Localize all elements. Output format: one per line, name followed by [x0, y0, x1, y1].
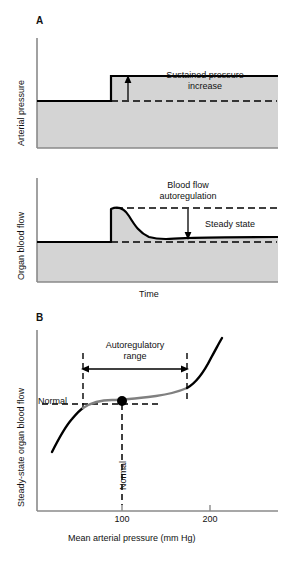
panel-b-range-arrow-head-left [81, 366, 89, 373]
panel-mid-autoregulation-arrow-head [185, 232, 192, 240]
panel-a-label: A [36, 15, 43, 26]
panel-mid-annotation-line1: Blood flow [138, 180, 238, 191]
panel-a-annotation: Sustained pressure increase [140, 70, 270, 92]
panel-a-annotation-line1: Sustained pressure [140, 70, 270, 81]
panel-b-x-axis-title: Mean arterial pressure (mm Hg) [68, 533, 196, 543]
panel-a-y-axis-title: Arterial pressure [16, 80, 26, 146]
panel-a-annotation-line2: increase [140, 81, 270, 92]
panel-mid-autoregulation-annotation: Blood flow autoregulation [138, 180, 238, 202]
panel-b-normal-flow-label: Normal [38, 396, 67, 407]
panel-b-normal-point-marker [117, 396, 127, 406]
panel-b-range-annotation-line2: range [85, 351, 185, 362]
panel-b-xtick-label-100: 100 [102, 514, 142, 524]
panel-mid-x-axis-title: Time [139, 289, 159, 299]
panel-mid-steady-state-annotation: Steady state [205, 219, 255, 230]
panel-b-label: B [36, 312, 43, 323]
panel-b-xtick-label-200: 200 [190, 514, 230, 524]
panel-mid-annotation-line2: autoregulation [138, 191, 238, 202]
panel-b-range-annotation-line1: Autoregulatory [85, 340, 185, 351]
panel-b-range-arrow-head-right [181, 366, 189, 373]
panel-b-range-annotation: Autoregulatory range [85, 340, 185, 362]
panel-b-y-axis-title: Steady-state organ blood flow [16, 388, 26, 507]
panel-mid-y-axis-title: Organ blood flow [16, 212, 26, 280]
panel-b-curve-plateau-gray [83, 388, 187, 408]
panel-a-increase-arrow-head [125, 75, 132, 83]
panel-b-curve-low-black [52, 408, 83, 452]
panel-b-curve-high-black [187, 338, 222, 388]
autoregulation-figure: A Arterial pressure Sustained pressure i… [0, 0, 289, 561]
panel-b-normal-pressure-label: Normal [118, 461, 129, 490]
